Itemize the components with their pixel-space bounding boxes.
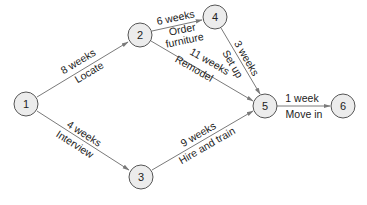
node-3-label: 3 [138,171,144,183]
node-2-label: 2 [137,29,143,41]
node-2: 2 [128,23,152,47]
node-6-label: 6 [340,100,346,112]
node-1-label: 1 [23,98,29,110]
edge-5-6-duration: 1 week [285,92,319,104]
node-5-label: 5 [262,100,268,112]
node-3: 3 [129,165,153,189]
activity-network-diagram: 8 weeks Locate 4 weeks Interview 6 weeks… [0,0,367,205]
node-1: 1 [14,92,38,116]
node-4-label: 4 [212,11,218,23]
node-5: 5 [253,94,277,118]
edge-5-6-activity: Move in [286,108,323,120]
edge-1-3 [37,111,129,170]
node-6: 6 [331,94,355,118]
node-4: 4 [203,5,227,29]
